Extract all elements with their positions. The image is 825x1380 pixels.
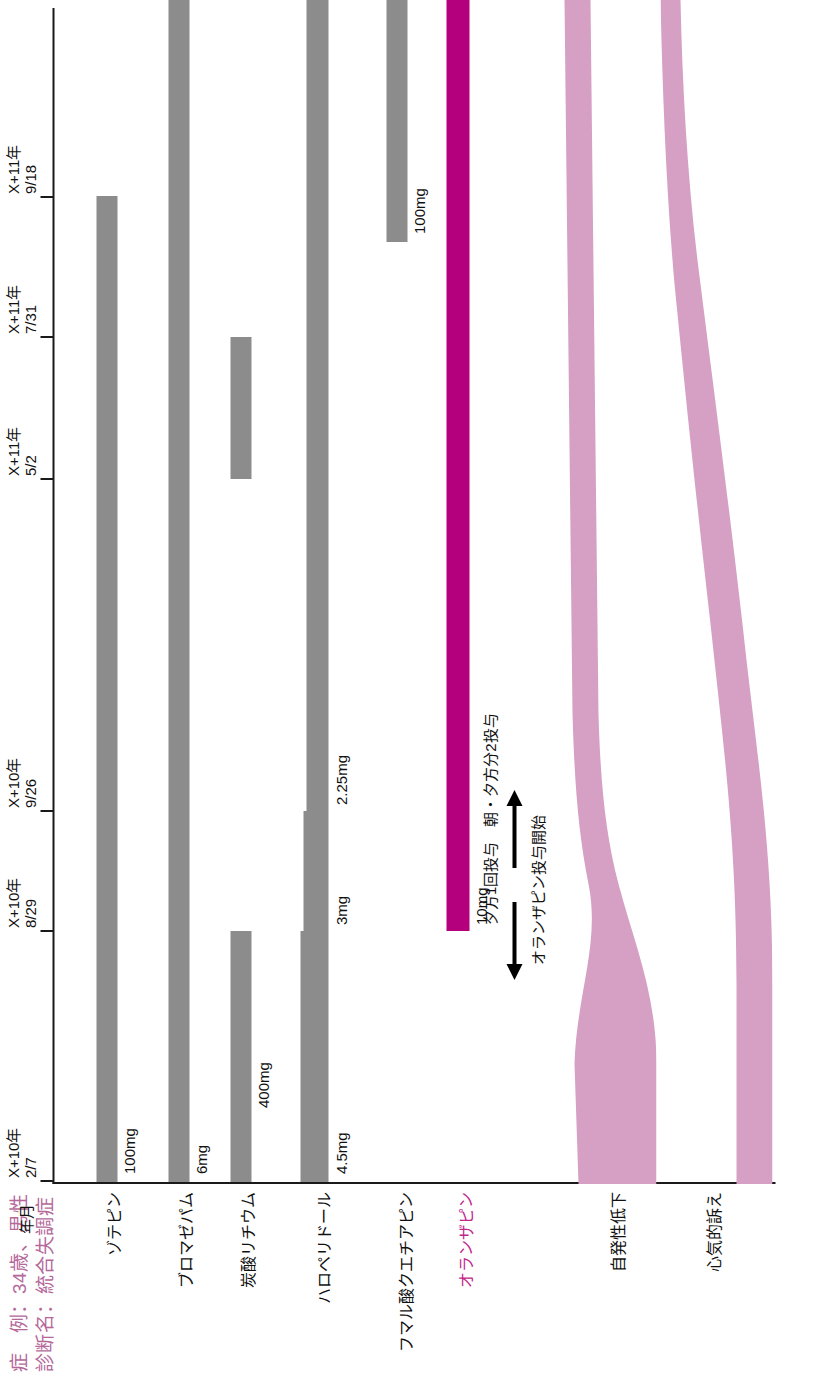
axis-tick-3 (40, 478, 53, 480)
axis-tick-2 (40, 810, 53, 812)
axis-tick-4 (40, 336, 53, 338)
axis-tick-5 (40, 196, 53, 198)
row-label-haloperidol: ハロペリドール (310, 1192, 334, 1380)
dose-haloperidol-4.5mg: 4.5mg (332, 1132, 349, 1174)
band-hypochondriacal-complaints (660, 0, 772, 1184)
row-label-decreased-spontaneity: 自発性低下 (604, 1192, 628, 1380)
dose-zotepine-100mg: 100mg (120, 1128, 137, 1174)
axis-tick-label-5: X+11年 9/18 (4, 145, 38, 194)
time-axis-line (52, 8, 54, 1184)
axis-tick-label-3: X+11年 5/2 (4, 427, 38, 476)
axis-tick-label-4: X+11年 7/31 (4, 285, 38, 334)
axis-tick-1 (40, 930, 53, 932)
axis-tick-label-1: X+10年 8/29 (4, 878, 38, 928)
patient-diagnosis-line: 診断名：統合失調症 (32, 1194, 58, 1372)
axis-caption: 年月 (14, 1204, 35, 1234)
rotated-chart-wrapper: 症 例：34歳、男性 診断名：統合失調症 年月 X+10年 2/7 X+10年 … (0, 0, 825, 1380)
dose-haloperidol-3mg: 3mg (332, 896, 349, 925)
row-label-zotepine: ゾテピン (100, 1192, 124, 1380)
bar-haloperidol-3mg (303, 811, 328, 931)
bar-bromazepam-6mg (168, 0, 189, 1182)
dose-haloperidol-2.25mg: 2.25mg (332, 755, 349, 805)
dose-bromazepam-6mg: 6mg (192, 1145, 209, 1174)
medication-timeline-chart: 症 例：34歳、男性 診断名：統合失調症 年月 X+10年 2/7 X+10年 … (0, 0, 825, 1380)
bar-quetiapine-100mg (386, 0, 407, 242)
dose-quetiapine-100mg: 100mg (410, 188, 427, 234)
band-decreased-spontaneity (560, 0, 656, 1184)
olanzapine-start-arrow (505, 790, 523, 980)
row-label-lithium: 炭酸リチウム (234, 1192, 258, 1380)
axis-tick-label-0: X+10年 2/7 (4, 1128, 38, 1178)
axis-tick-label-2: X+10年 9/26 (4, 758, 38, 808)
bar-haloperidol-4.5mg (300, 931, 328, 1182)
annotation-dosing-schedule: 夕方1回投与 朝・夕方分2投与 (478, 713, 499, 925)
row-label-hypochondriacal-complaints: 心気的訴え (700, 1192, 724, 1380)
bar-haloperidol-2.25mg (306, 0, 328, 811)
bar-lithium-resumed (230, 337, 251, 479)
axis-tick-0 (40, 1180, 53, 1182)
row-label-olanzapine: オランザピン (452, 1192, 476, 1380)
bar-olanzapine-10mg (446, 0, 469, 931)
row-label-bromazepam: ブロマゼパム (172, 1192, 196, 1380)
bar-zotepine-100mg (96, 196, 117, 1182)
dose-lithium-400mg: 400mg (254, 1062, 271, 1108)
bar-lithium-400mg (230, 931, 251, 1182)
row-label-quetiapine: フマル酸クエチアピン (392, 1192, 416, 1380)
annotation-olanzapine-start: オランザピン投与開始 (526, 815, 547, 965)
